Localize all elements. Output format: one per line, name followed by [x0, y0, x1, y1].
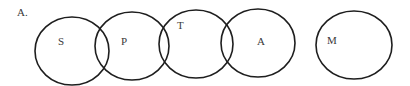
circle-label-a: A: [257, 35, 265, 47]
diagram-label: A.: [17, 6, 28, 18]
circle-label-p: P: [121, 35, 127, 47]
circle-label-s: S: [58, 35, 64, 47]
circle-p: [95, 12, 169, 80]
circle-label-m: M: [327, 34, 337, 46]
venn-diagram: A. SPTAM: [0, 0, 410, 86]
circle-t: [159, 10, 233, 78]
circle-s: [35, 17, 109, 85]
circle-label-t: T: [177, 19, 184, 31]
